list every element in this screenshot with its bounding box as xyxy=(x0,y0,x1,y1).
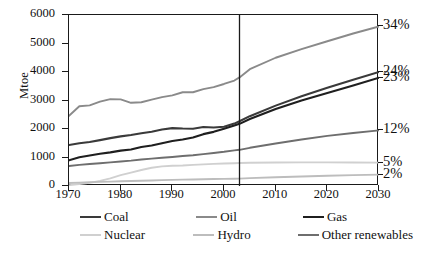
legend-line-swatch xyxy=(196,216,217,218)
legend-row: CoalOilGas xyxy=(68,208,413,226)
legend-item-hydro[interactable]: Hydro xyxy=(185,226,291,244)
percent-label: 23% xyxy=(383,70,410,83)
y-tick-label: 6000 xyxy=(5,8,55,18)
plot-area xyxy=(68,14,378,185)
legend-label: Gas xyxy=(327,209,347,225)
legend-line-swatch xyxy=(80,216,101,218)
legend-item-other-renewables[interactable]: Other renewables xyxy=(292,226,413,244)
y-tick-label: 5000 xyxy=(5,37,55,47)
x-tick-mark xyxy=(326,185,327,191)
line-series-oil xyxy=(69,26,379,115)
legend-line-swatch xyxy=(303,216,324,218)
legend-label: Hydro xyxy=(217,227,250,243)
x-tick-mark xyxy=(223,185,224,191)
legend-item-gas[interactable]: Gas xyxy=(297,208,413,226)
legend-label: Coal xyxy=(104,209,129,225)
energy-outlook-chart: Mtoe 0100020003000400050006000 197019801… xyxy=(0,0,427,254)
x-tick-mark xyxy=(68,185,69,191)
y-tick-label: 4000 xyxy=(5,65,55,75)
line-series-gas xyxy=(69,78,379,161)
legend-line-swatch xyxy=(80,234,101,236)
y-tick-label: 2000 xyxy=(5,122,55,132)
legend-label: Nuclear xyxy=(104,227,145,243)
percent-tick-mark xyxy=(378,129,383,130)
legend-row: NuclearHydroOther renewables xyxy=(68,226,413,244)
percent-tick-mark xyxy=(378,77,383,78)
percent-label: 34% xyxy=(383,18,410,31)
percent-label: 12% xyxy=(383,122,410,135)
legend-item-nuclear[interactable]: Nuclear xyxy=(68,226,185,244)
legend-label: Oil xyxy=(220,209,237,225)
percent-label: 2% xyxy=(383,167,402,180)
x-tick-mark xyxy=(120,185,121,191)
legend-item-oil[interactable]: Oil xyxy=(188,208,297,226)
x-tick-mark xyxy=(378,185,379,191)
percent-tick-mark xyxy=(378,162,383,163)
percent-tick-mark xyxy=(378,25,383,26)
percent-tick-mark xyxy=(378,174,383,175)
x-tick-mark xyxy=(275,185,276,191)
line-series-coal xyxy=(69,72,379,145)
chart-legend: CoalOilGasNuclearHydroOther renewables xyxy=(68,208,413,250)
legend-line-swatch xyxy=(193,234,214,236)
legend-line-swatch xyxy=(298,234,319,236)
y-tick-label: 1000 xyxy=(5,151,55,161)
y-tick-label: 3000 xyxy=(5,94,55,104)
x-tick-mark xyxy=(171,185,172,191)
line-series-other-renewables xyxy=(69,130,379,166)
legend-item-coal[interactable]: Coal xyxy=(68,208,188,226)
series-lines xyxy=(69,15,379,186)
legend-label: Other renewables xyxy=(322,227,413,243)
